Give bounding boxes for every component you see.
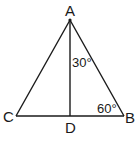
angle-label-b: 60° (97, 101, 117, 116)
angle-label-a: 30° (72, 55, 92, 70)
vertex-label-c: C (3, 108, 14, 125)
vertex-label-a: A (65, 2, 75, 19)
triangle-diagram: A C B D 30° 60° (0, 0, 140, 144)
vertex-label-d: D (65, 119, 76, 136)
vertex-label-b: B (125, 109, 135, 126)
segment-ac (16, 20, 70, 116)
